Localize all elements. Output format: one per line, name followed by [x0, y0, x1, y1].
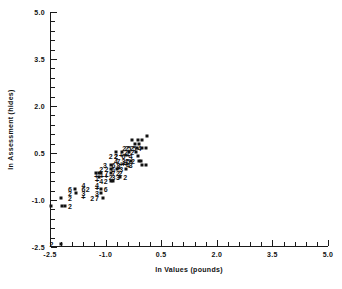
x-tick-minor	[128, 242, 129, 246]
data-point-count-label: 6	[104, 186, 108, 193]
y-tick-minor	[51, 78, 55, 79]
data-point-count-label: 2	[90, 194, 94, 201]
x-tick-minor	[94, 242, 95, 246]
x-tick-major	[328, 240, 329, 246]
y-tick-minor	[51, 181, 55, 182]
data-point-marker	[114, 151, 117, 154]
y-tick-minor	[51, 238, 55, 239]
y-tick-minor	[51, 172, 55, 173]
data-point-count-label: 4	[81, 181, 85, 188]
data-point-count-label: 3	[103, 161, 107, 168]
data-point-marker	[130, 138, 133, 141]
y-axis-title-text: ln Assessment (hides)	[7, 89, 14, 169]
y-tick-minor	[51, 21, 55, 22]
x-tick-minor	[250, 242, 251, 246]
y-axis-title: ln Assessment (hides)	[4, 12, 16, 247]
data-point-count-label: 2	[86, 186, 90, 193]
y-tick-minor	[51, 68, 55, 69]
x-tick-minor	[183, 242, 184, 246]
y-tick-minor	[51, 144, 55, 145]
data-point-marker	[140, 163, 143, 166]
y-tick-minor	[51, 31, 55, 32]
y-tick-label: -2.5	[32, 244, 45, 251]
y-tick-minor	[51, 115, 55, 116]
data-point-count-label: 6	[68, 186, 72, 193]
x-tick-minor	[306, 242, 307, 246]
y-axis-line	[50, 12, 51, 247]
data-point-marker	[141, 147, 144, 150]
x-tick-label: -2.5	[43, 251, 56, 258]
y-tick-label: 3.5	[34, 56, 45, 63]
x-tick-minor	[83, 242, 84, 246]
y-tick-minor	[51, 162, 55, 163]
data-point-marker	[137, 155, 140, 158]
y-tick-major	[51, 59, 57, 60]
data-point-marker	[139, 159, 142, 162]
x-tick-label: 5.0	[323, 251, 334, 258]
x-tick-major	[272, 240, 273, 246]
data-point-marker	[50, 204, 53, 207]
x-axis-title-text: ln Values (pounds)	[155, 266, 223, 273]
data-point-marker	[100, 188, 103, 191]
x-tick-minor	[206, 242, 207, 246]
x-tick-minor	[139, 242, 140, 246]
data-point-marker	[74, 192, 77, 195]
y-tick-minor	[51, 228, 55, 229]
data-point-count-label: 2	[109, 153, 113, 160]
data-point-marker	[133, 143, 136, 146]
data-point-count-label: 2	[123, 173, 127, 180]
y-tick-major	[51, 200, 57, 201]
x-tick-minor	[295, 242, 296, 246]
y-tick-label: -1.0	[32, 197, 45, 204]
y-tick-minor	[51, 97, 55, 98]
data-point-marker	[73, 188, 76, 191]
x-tick-minor	[228, 242, 229, 246]
y-tick-minor	[51, 191, 55, 192]
scatter-plot-figure: ln Assessment (hides) -2.5-1.00.52.03.55…	[0, 0, 342, 289]
data-point-marker	[59, 196, 62, 199]
plot-axes-area: -2.5-1.00.52.03.55.0 -2.5-1.00.52.03.55.…	[50, 12, 328, 247]
x-axis-line	[50, 246, 328, 247]
y-tick-major	[51, 12, 57, 13]
x-tick-minor	[284, 242, 285, 246]
x-tick-label: 3.5	[267, 251, 278, 258]
data-point-marker	[63, 204, 66, 207]
x-tick-minor	[195, 242, 196, 246]
y-tick-minor	[51, 219, 55, 220]
x-tick-major	[106, 240, 107, 246]
data-point-marker	[100, 192, 103, 195]
y-tick-major	[51, 153, 57, 154]
x-tick-minor	[172, 242, 173, 246]
data-point-marker	[145, 147, 148, 150]
data-point-marker	[60, 242, 63, 245]
x-axis-title: ln Values (pounds)	[50, 266, 328, 273]
data-point-count-label: 2	[68, 202, 72, 209]
y-tick-minor	[51, 209, 55, 210]
x-tick-minor	[317, 242, 318, 246]
data-point-count-label: 2	[50, 240, 54, 247]
x-tick-minor	[117, 242, 118, 246]
x-tick-label: 2.0	[211, 251, 222, 258]
x-tick-major	[161, 240, 162, 246]
data-point-marker	[141, 138, 144, 141]
data-point-marker	[146, 135, 149, 138]
data-point-marker	[137, 138, 140, 141]
x-tick-minor	[239, 242, 240, 246]
x-tick-minor	[261, 242, 262, 246]
y-tick-minor	[51, 50, 55, 51]
y-tick-minor	[51, 134, 55, 135]
y-tick-label: 2.0	[34, 103, 45, 110]
y-tick-minor	[51, 87, 55, 88]
y-tick-label: 0.5	[34, 150, 45, 157]
data-point-marker	[145, 163, 148, 166]
y-tick-minor	[51, 125, 55, 126]
x-tick-label: 0.5	[156, 251, 167, 258]
x-tick-minor	[150, 242, 151, 246]
x-tick-minor	[72, 242, 73, 246]
data-point-marker	[102, 196, 105, 199]
y-tick-label: 5.0	[34, 9, 45, 16]
y-tick-minor	[51, 40, 55, 41]
x-tick-label: -1.0	[99, 251, 112, 258]
data-point-marker	[138, 143, 141, 146]
data-point-count-label: 2	[114, 153, 118, 160]
